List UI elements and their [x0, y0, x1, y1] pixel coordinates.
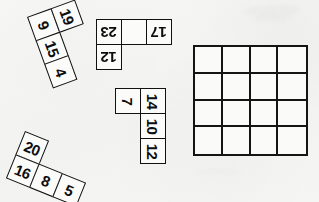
- worksheet-canvas: 9 19 15 4 23 17 12 7 14: [0, 0, 319, 202]
- grid-cell[interactable]: [278, 47, 306, 74]
- grid-cell[interactable]: [251, 47, 279, 74]
- tile-value: 4: [52, 66, 69, 79]
- tile-value: 7: [121, 97, 136, 105]
- tile-value: 20: [22, 138, 42, 158]
- grid-cell[interactable]: [251, 101, 279, 128]
- grid-cell[interactable]: [223, 101, 251, 128]
- grid-cell[interactable]: [195, 47, 223, 74]
- tile[interactable]: 14: [140, 88, 166, 114]
- tile[interactable]: 23: [96, 19, 122, 45]
- grid-cell[interactable]: [251, 127, 279, 154]
- paper-smudge: [243, 5, 301, 16]
- tile-value: 12: [146, 143, 161, 159]
- grid-cell[interactable]: [278, 74, 306, 101]
- grid-cell[interactable]: [223, 74, 251, 101]
- grid-cell[interactable]: [223, 127, 251, 154]
- tile-value: 9: [35, 19, 52, 32]
- tile-value: 16: [13, 161, 33, 181]
- tile[interactable]: 7: [115, 88, 141, 114]
- tile[interactable]: 17: [146, 19, 172, 45]
- paper-smudge: [196, 168, 242, 175]
- paper-smudge: [252, 15, 292, 22]
- tile-value: 14: [146, 93, 161, 109]
- grid-cell[interactable]: [195, 127, 223, 154]
- grid-cell[interactable]: [195, 101, 223, 128]
- tile-value: 23: [101, 25, 117, 40]
- answer-grid[interactable]: [193, 45, 308, 156]
- tile[interactable]: 12: [140, 138, 166, 164]
- tile-value: 8: [40, 172, 53, 189]
- grid-cell[interactable]: [223, 47, 251, 74]
- grid-cell[interactable]: [278, 101, 306, 128]
- grid-cell[interactable]: [195, 74, 223, 101]
- tile-value: 19: [57, 6, 76, 26]
- tile-value: 17: [151, 25, 167, 40]
- tile-empty[interactable]: [121, 19, 147, 45]
- tile-value: 5: [63, 181, 76, 198]
- tile[interactable]: 12: [96, 44, 122, 70]
- tile-value: 15: [42, 38, 61, 58]
- tile[interactable]: 10: [140, 113, 166, 139]
- grid-cell[interactable]: [251, 74, 279, 101]
- grid-cell[interactable]: [278, 127, 306, 154]
- tile-value: 10: [146, 118, 161, 134]
- tile-value: 12: [101, 50, 117, 65]
